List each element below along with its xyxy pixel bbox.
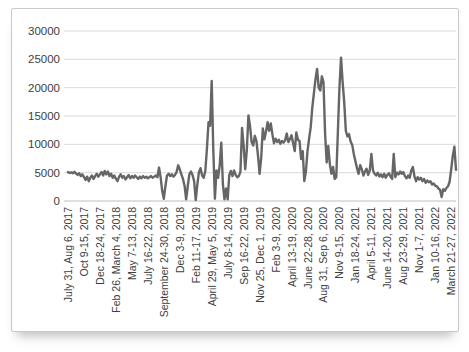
x-tick-label: Aug 23-29, 2021 <box>397 207 409 285</box>
x-tick-label: June 22-28, 2020 <box>302 207 314 289</box>
screenshot-canvas: 050001000015000200002500030000 July 31, … <box>0 0 469 352</box>
y-tick-label: 5000 <box>34 167 60 179</box>
y-tick-label: 30000 <box>28 25 60 37</box>
x-axis-labels: July 31, Aug 6, 2017Oct 9-15, 2017Dec 18… <box>62 207 457 317</box>
x-tick-label: Feb 26, March 4, 2018 <box>110 207 122 313</box>
x-tick-label: July 16-22, 2018 <box>142 207 154 285</box>
x-tick-label: July 8-14, 2019 <box>222 207 234 279</box>
x-tick-label: March 21-27, 2022 <box>445 207 457 295</box>
data-series-line <box>68 58 456 201</box>
x-tick-label: June 14-20, 2021 <box>381 207 393 289</box>
x-tick-label: Dec 18-24, 2017 <box>94 207 106 285</box>
series-polyline <box>68 58 456 201</box>
x-tick-label: May 7-13, 2018 <box>126 207 138 280</box>
x-tick-label: Sep 16-22, 2019 <box>238 207 250 285</box>
x-tick-label: Nov 9-15, 2020 <box>333 207 345 279</box>
y-tick-label: 20000 <box>28 82 60 94</box>
x-tick-label: Oct 9-15, 2017 <box>78 207 90 277</box>
y-tick-label: 0 <box>54 195 60 207</box>
y-axis-labels: 050001000015000200002500030000 <box>28 25 60 207</box>
x-tick-label: April 29, May 5, 2019 <box>206 207 218 306</box>
x-tick-label: Feb 3-9, 2020 <box>270 207 282 273</box>
x-tick-label: Jan 18-24, 2021 <box>349 207 361 283</box>
chart-figure: 050001000015000200002500030000 July 31, … <box>11 8 459 332</box>
x-tick-label: Nov 25, Dec 1, 2019 <box>254 207 266 303</box>
x-tick-label: Dec 3-9, 2018 <box>174 207 186 273</box>
x-tick-label: Feb 11-17, 2019 <box>190 207 202 283</box>
x-tick-label: Aug 31, Sep 6, 2020 <box>317 207 329 303</box>
x-tick-label: April 13-19, 2020 <box>286 207 298 287</box>
x-tick-label: Nov 1-7, 2021 <box>413 207 425 273</box>
y-tick-label: 25000 <box>28 53 60 65</box>
y-tick-label: 10000 <box>28 138 60 150</box>
x-tick-label: April 5-11, 2021 <box>365 207 377 281</box>
x-tick-label: September 24-30, 2018 <box>158 207 170 317</box>
y-tick-label: 15000 <box>28 110 60 122</box>
x-tick-label: Jan 10-16, 2022 <box>429 207 441 283</box>
x-tick-label: July 31, Aug 6, 2017 <box>62 207 74 302</box>
line-chart: 050001000015000200002500030000 July 31, … <box>12 9 458 331</box>
